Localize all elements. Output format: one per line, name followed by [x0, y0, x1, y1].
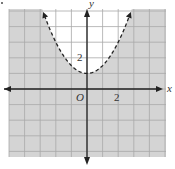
- x-axis-label: x: [167, 83, 172, 94]
- x-tick-label-2: 2: [114, 92, 120, 103]
- origin-label: O: [76, 92, 84, 103]
- y-axis-label: y: [89, 0, 94, 9]
- coordinate-plane: [0, 0, 175, 169]
- y-tick-label-2: 2: [77, 52, 83, 63]
